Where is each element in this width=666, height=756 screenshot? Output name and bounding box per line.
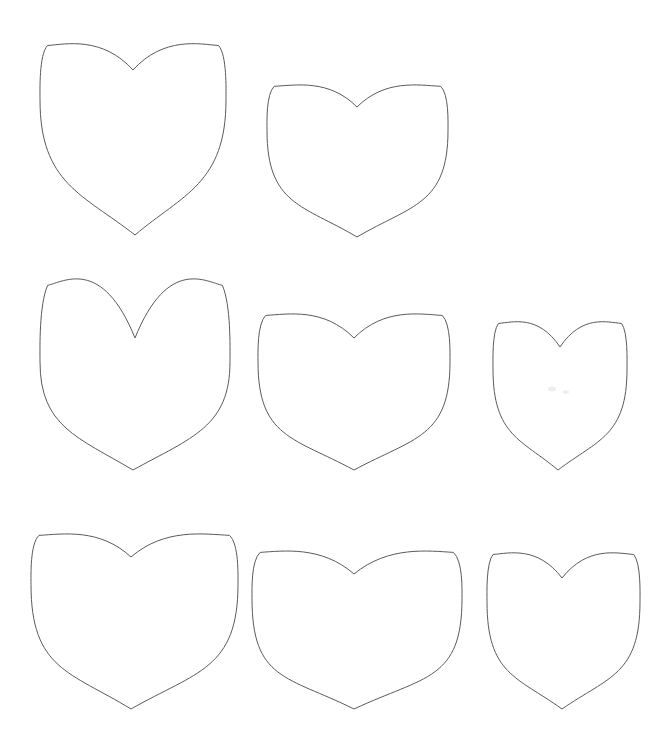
heart-shapes-canvas: Heart 1 - large tall pointedHeart 2 - wi…: [0, 0, 666, 756]
paper-smudge-artifact: [563, 390, 569, 394]
heart-template-sheet: Heart 1 - large tall pointedHeart 2 - wi…: [0, 0, 666, 756]
paper-smudge-artifact: [548, 387, 556, 392]
